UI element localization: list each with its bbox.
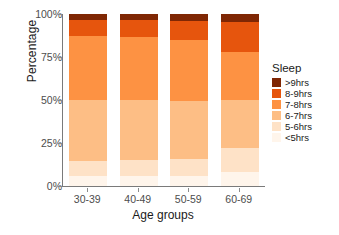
legend-label: >9hrs bbox=[285, 77, 309, 88]
bar-segment[interactable] bbox=[170, 21, 208, 40]
y-tick-label: 50% bbox=[18, 94, 62, 106]
bar-segment[interactable] bbox=[120, 20, 158, 37]
stacked-bars bbox=[63, 14, 265, 186]
y-tick-label: 75% bbox=[18, 51, 62, 63]
plot-panel bbox=[62, 14, 265, 187]
bar-segment[interactable] bbox=[221, 52, 259, 100]
x-tick-mark bbox=[188, 188, 189, 192]
legend-title: Sleep bbox=[272, 62, 339, 74]
chart-figure: Percentage 0%25%50%75%100% 30-3940-4950-… bbox=[0, 0, 339, 235]
bar-segment[interactable] bbox=[120, 100, 158, 160]
bar-segment[interactable] bbox=[221, 14, 259, 22]
bar-group bbox=[63, 14, 114, 186]
legend-item[interactable]: <5hrs bbox=[272, 132, 339, 143]
x-tick-mark bbox=[87, 188, 88, 192]
legend-swatch bbox=[272, 111, 281, 120]
bar-segment[interactable] bbox=[170, 159, 208, 175]
bar-segment[interactable] bbox=[69, 100, 107, 161]
bar-segment[interactable] bbox=[221, 172, 259, 186]
legend-label: 7-8hrs bbox=[285, 99, 312, 110]
legend-swatch bbox=[272, 89, 281, 98]
bar-segment[interactable] bbox=[221, 100, 259, 148]
legend-swatch bbox=[272, 133, 281, 142]
x-tick-mark bbox=[239, 188, 240, 192]
legend-swatch bbox=[272, 100, 281, 109]
y-axis-ticks: 0%25%50%75%100% bbox=[0, 0, 62, 235]
y-tick-label: 0% bbox=[18, 180, 62, 192]
legend-item[interactable]: 6-7hrs bbox=[272, 110, 339, 121]
stacked-bar[interactable] bbox=[69, 14, 107, 186]
bar-segment[interactable] bbox=[69, 36, 107, 100]
bar-segment[interactable] bbox=[120, 160, 158, 175]
bar-segment[interactable] bbox=[69, 20, 107, 36]
legend-label: 6-7hrs bbox=[285, 110, 312, 121]
bar-segment[interactable] bbox=[170, 101, 208, 159]
bar-segment[interactable] bbox=[69, 161, 107, 176]
bar-segment[interactable] bbox=[170, 40, 208, 101]
legend: Sleep >9hrs8-9hrs7-8hrs6-7hrs5-6hrs<5hrs bbox=[272, 62, 339, 143]
stacked-bar[interactable] bbox=[221, 14, 259, 186]
legend-label: 5-6hrs bbox=[285, 121, 312, 132]
bar-segment[interactable] bbox=[120, 176, 158, 186]
legend-label: <5hrs bbox=[285, 132, 309, 143]
bar-group bbox=[164, 14, 215, 186]
legend-item[interactable]: 8-9hrs bbox=[272, 88, 339, 99]
legend-item[interactable]: 5-6hrs bbox=[272, 121, 339, 132]
y-tick-label: 25% bbox=[18, 137, 62, 149]
bar-group bbox=[215, 14, 266, 186]
stacked-bar[interactable] bbox=[170, 14, 208, 186]
stacked-bar[interactable] bbox=[120, 14, 158, 186]
bar-segment[interactable] bbox=[170, 14, 208, 21]
bar-segment[interactable] bbox=[170, 176, 208, 186]
x-axis-title: Age groups bbox=[62, 208, 264, 222]
x-tick-mark bbox=[138, 188, 139, 192]
bar-segment[interactable] bbox=[69, 176, 107, 186]
bar-segment[interactable] bbox=[120, 37, 158, 100]
x-axis-ticks: 30-3940-4950-5960-69 bbox=[62, 188, 264, 206]
legend-swatch bbox=[272, 122, 281, 131]
legend-items: >9hrs8-9hrs7-8hrs6-7hrs5-6hrs<5hrs bbox=[272, 77, 339, 143]
legend-item[interactable]: 7-8hrs bbox=[272, 99, 339, 110]
legend-label: 8-9hrs bbox=[285, 88, 312, 99]
bar-segment[interactable] bbox=[221, 148, 259, 172]
legend-item[interactable]: >9hrs bbox=[272, 77, 339, 88]
y-tick-label: 100% bbox=[18, 8, 62, 20]
legend-swatch bbox=[272, 78, 281, 87]
bar-segment[interactable] bbox=[221, 22, 259, 52]
bar-group bbox=[114, 14, 165, 186]
